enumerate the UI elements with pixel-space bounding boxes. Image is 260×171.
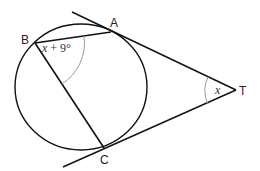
point-label-t: T	[239, 84, 247, 98]
point-label-c: C	[100, 153, 109, 167]
chord-bc	[35, 43, 104, 148]
angle-arc-t	[205, 77, 208, 104]
angle-label-b: x + 9°	[41, 41, 71, 55]
tangent-line-ta	[72, 12, 236, 90]
tangent-line-tc	[63, 90, 236, 167]
point-label-b: B	[21, 33, 29, 47]
geometry-diagram: A B C T x + 9° x	[0, 0, 260, 171]
point-label-a: A	[110, 16, 118, 30]
angle-label-t: x	[214, 83, 221, 97]
circle	[15, 24, 147, 150]
